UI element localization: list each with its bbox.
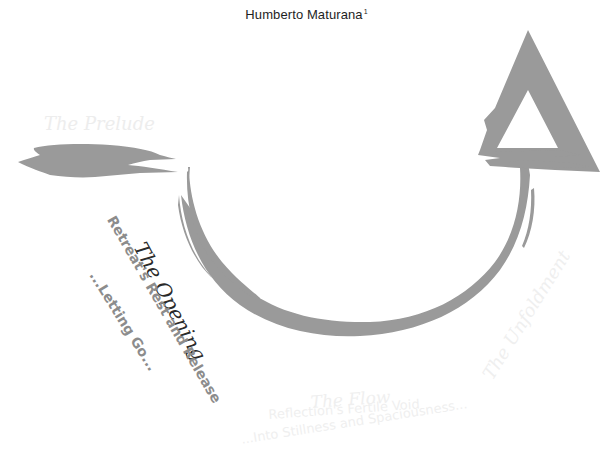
- process-diagram: [0, 0, 613, 466]
- prelude-brush-stroke: [18, 144, 178, 177]
- stage-prelude-title: The Prelude: [44, 113, 155, 134]
- u-curve-main-stroke: [181, 163, 530, 336]
